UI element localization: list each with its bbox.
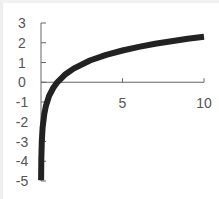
y-tick-label: 0 [18, 74, 26, 90]
y-tick-label: 3 [18, 15, 26, 31]
line-chart: 3210-1-2-3-4-5 510 [0, 0, 219, 199]
chart-frame: 3210-1-2-3-4-5 510 [0, 0, 219, 199]
y-tick-label: 1 [18, 55, 26, 71]
y-tick-label: 2 [18, 35, 26, 51]
y-tick-label: -3 [16, 134, 29, 150]
x-axis: 510 [41, 78, 212, 111]
x-tick-label: 5 [119, 95, 127, 111]
y-tick-label: -2 [16, 114, 29, 130]
y-tick-label: -1 [16, 94, 29, 110]
y-tick-label: -4 [16, 153, 29, 169]
y-tick-label: -5 [16, 173, 29, 189]
x-tick-label: 10 [196, 95, 212, 111]
